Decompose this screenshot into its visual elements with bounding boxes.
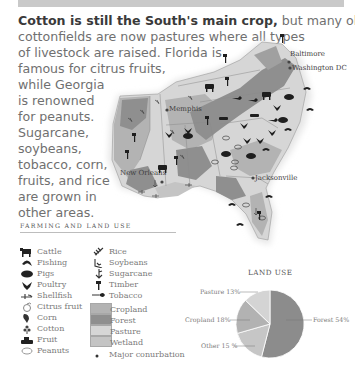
city-washington-dc: Washington DC — [288, 64, 346, 72]
legend-label-pasture: Pasture — [110, 326, 141, 337]
timber-icon — [92, 280, 106, 290]
legend-item-sugarcane: Sugarcane — [92, 268, 152, 279]
land-use-pie-chart: Pasture 13% Cropland 18% Other 15 % Fore… — [180, 280, 355, 365]
legend-item-cotton: Cotton — [20, 323, 64, 334]
pigs-icon — [20, 269, 34, 279]
pie-chart-title: LAND USE — [248, 268, 293, 277]
tobacco-icon — [92, 291, 106, 301]
rice-icon — [92, 247, 106, 257]
header-bar — [18, 0, 344, 7]
legend-label-wetland: Wetland — [110, 337, 143, 348]
city-jacksonville: Jacksonville — [251, 174, 297, 182]
legend-item-soybeans: Soybeans — [92, 257, 148, 268]
legend-title: FARMING AND LAND USE — [20, 222, 132, 229]
pie-label-forest: Forest 54% — [313, 316, 349, 323]
legend-label-forest: Forest — [110, 315, 136, 326]
soybeans-icon — [92, 258, 106, 268]
legend-item-citrus-fruit: Citrus fruit — [20, 301, 82, 312]
swatch-wetland — [90, 336, 112, 347]
sugarcane-icon — [92, 269, 106, 279]
svg-text:Baltimore: Baltimore — [290, 50, 325, 58]
legend-item-major-conurbation: Major conurbation — [92, 349, 185, 360]
cotton-icon — [20, 324, 34, 334]
fruit-icon — [20, 335, 34, 345]
legend-item-timber: Timber — [92, 279, 138, 290]
legend-divider — [20, 232, 176, 233]
legend-item-tobacco: Tobacco — [92, 290, 142, 301]
legend-item-peanuts: Peanuts — [20, 345, 69, 356]
pie-label-other: Other 15 % — [201, 342, 238, 349]
conurbation-dot-icon — [92, 350, 106, 360]
swatch-cropland — [90, 303, 112, 314]
legend-item-fruit: Fruit — [20, 334, 57, 345]
pie-label-cropland: Cropland 18% — [185, 316, 231, 324]
southeast-us-map: Baltimore Washington DC Memphis New Orle… — [100, 30, 355, 250]
legend-item-shellfish: Shellfish — [20, 290, 72, 301]
legend-item-cattle: Cattle — [20, 246, 62, 257]
svg-text:Memphis: Memphis — [169, 105, 202, 113]
swatch-pasture — [90, 325, 112, 336]
city-memphis: Memphis — [165, 105, 202, 113]
legend-item-rice: Rice — [92, 246, 127, 257]
pie-label-pasture: Pasture 13% — [200, 288, 240, 295]
svg-text:Jacksonville: Jacksonville — [254, 174, 297, 182]
corn-icon — [20, 313, 34, 323]
swatch-forest — [90, 314, 112, 325]
legend-item-fishing: Fishing — [20, 257, 67, 268]
citrus-fruit-icon — [20, 302, 34, 312]
peanuts-icon — [20, 346, 34, 356]
intro-lead: Cotton is still the South's main crop, — [18, 13, 278, 28]
poultry-icon — [20, 280, 34, 290]
legend-label-cropland: Cropland — [110, 304, 147, 315]
legend-item-corn: Corn — [20, 312, 57, 323]
fishing-icon — [20, 258, 34, 268]
svg-text:Washington DC: Washington DC — [292, 64, 347, 72]
legend-item-pigs: Pigs — [20, 268, 54, 279]
cattle-icon — [20, 247, 34, 257]
legend-item-poultry: Poultry — [20, 279, 66, 290]
shellfish-icon — [20, 291, 34, 301]
